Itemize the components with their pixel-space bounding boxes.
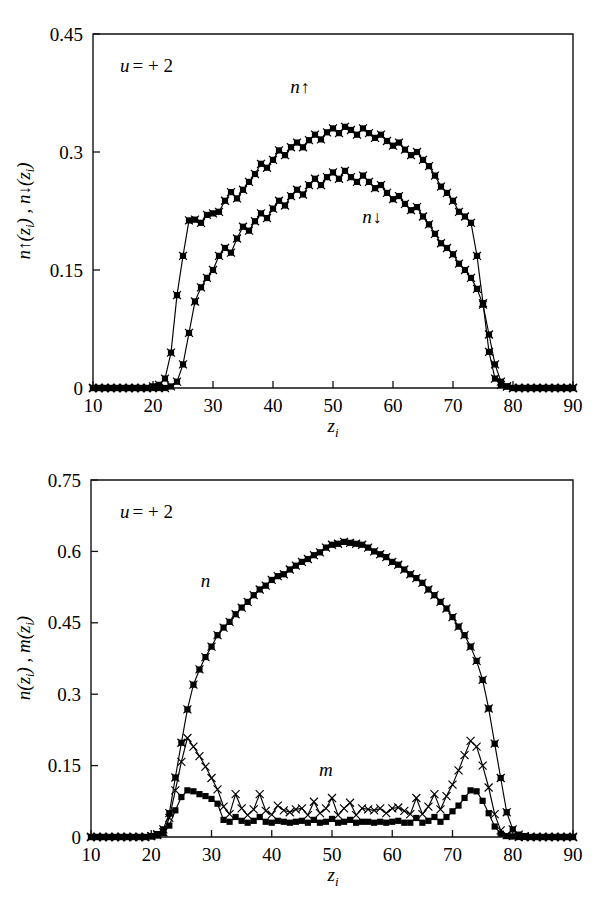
marker-cross [189,743,197,751]
y-axis-label-part: (z [13,172,35,186]
x-axis-label-subscript: i [335,425,339,440]
marker-square [467,787,473,793]
series-m [87,734,577,841]
marker-square [329,816,335,822]
marker-square [528,834,534,840]
annotation-symbol: u [120,55,130,76]
annotation-coupling: u= + 2 [120,501,173,522]
y-tick-label: 0.15 [50,260,83,281]
y-axis-label: n(zi) , m(zi) [13,616,37,700]
marker-square [407,820,413,826]
marker-square [305,820,311,826]
marker-square [287,820,293,826]
y-tick-label: 0.75 [48,470,81,491]
x-tick-label: 80 [503,844,522,865]
series-label-n: n [201,570,211,591]
marker-cross [310,798,318,806]
marker-cross [256,790,264,798]
marker-square [142,834,148,840]
marker-cross [250,805,258,813]
plot-frame [93,34,573,388]
marker-square [257,814,263,820]
marker-square [323,819,329,825]
series-n↓ [89,167,577,392]
marker-square [492,823,498,829]
marker-square [353,820,359,826]
marker-cross [274,802,282,810]
x-tick-label: 30 [202,844,221,865]
marker-square [564,834,570,840]
marker-square [546,834,552,840]
x-tick-label: 20 [144,395,163,416]
marker-square [130,834,136,840]
y-tick-label: 0.3 [59,142,83,163]
marker-square [184,787,190,793]
marker-cross [473,743,481,751]
marker-cross [449,781,457,789]
marker-square [269,820,275,826]
marker-cross [455,766,463,774]
marker-square [196,791,202,797]
y-axis-label-arrow: ↑ [15,242,34,251]
marker-square [220,817,226,823]
x-axis-label-subscript: i [335,874,339,889]
x-tick-label: 90 [564,395,583,416]
marker-square [480,798,486,804]
marker-square [124,834,130,840]
marker-cross [183,734,191,742]
series-line [93,171,573,388]
chart-panel-top: 00.150.30.45102030405060708090zin↑(zi) ,… [13,24,583,441]
marker-square [377,819,383,825]
chart-panel-bottom: 00.150.30.450.60.75102030405060708090zin… [13,470,583,890]
marker-square [233,814,239,820]
series-label-symbol: m [319,759,333,780]
series-line [91,738,573,837]
marker-square [239,818,245,824]
marker-square [311,817,317,823]
marker-square [208,796,214,802]
y-axis-label-part: ) , [13,653,35,675]
marker-cross [220,803,228,811]
series-label-arrow: ↓ [373,207,382,227]
annotation-coupling: u= + 2 [120,55,173,76]
x-axis-label: zi [326,864,338,889]
y-axis-label-part: n [13,250,34,260]
marker-cross [346,799,354,807]
marker-square [341,819,347,825]
marker-square [166,822,172,828]
marker-cross [195,752,203,760]
marker-cross [442,792,450,800]
marker-square [534,834,540,840]
marker-square [455,802,461,808]
marker-square [383,820,389,826]
marker-square [419,820,425,826]
x-tick-label: 20 [142,844,161,865]
annotation-value: = + 2 [133,501,173,522]
marker-square [106,834,112,840]
x-tick-label: 50 [323,844,342,865]
marker-square [431,814,437,820]
x-tick-label: 30 [204,395,223,416]
marker-square [190,788,196,794]
marker-square [461,795,467,801]
marker-square [94,834,100,840]
marker-square [437,819,443,825]
series-n [87,538,577,841]
marker-square [136,834,142,840]
x-tick-label: 60 [384,395,403,416]
y-axis-label-part: ) [13,616,35,623]
series-n↑ [89,123,577,392]
y-tick-label: 0 [74,378,84,399]
series-label-symbol: n [290,76,300,97]
marker-square [202,793,208,799]
series-line [91,542,573,837]
marker-square [100,834,106,840]
x-axis-label: zi [326,415,338,440]
marker-square [516,834,522,840]
marker-square [570,834,576,840]
series-label-symbol: n [362,206,372,227]
series-label-m: m [319,759,333,780]
y-tick-label: 0.15 [48,755,81,776]
marker-square [401,820,407,826]
marker-cross [316,809,324,817]
